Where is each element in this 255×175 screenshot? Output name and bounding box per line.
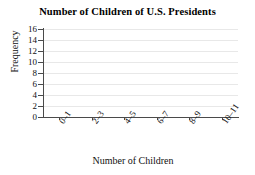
y-tick-mark [38, 62, 43, 63]
y-tick-label: 6 [17, 80, 37, 89]
gridline [43, 73, 238, 74]
y-tick-mark [38, 29, 43, 30]
y-tick-label: 2 [17, 102, 37, 111]
x-axis-line [43, 117, 239, 118]
gridline [43, 62, 238, 63]
gridline [43, 106, 238, 107]
gridline [43, 29, 238, 30]
chart-title: Number of Children of U.S. Presidents [0, 6, 255, 17]
y-tick-mark [38, 117, 43, 118]
y-tick-label: 0 [17, 113, 37, 122]
y-tick-label: 14 [17, 36, 37, 45]
gridline [43, 51, 238, 52]
y-tick-label: 16 [17, 25, 37, 34]
x-axis-title: Number of Children [28, 155, 238, 166]
y-tick-mark [38, 73, 43, 74]
y-tick-label: 12 [17, 47, 37, 56]
y-axis-line [43, 28, 44, 118]
gridline [43, 84, 238, 85]
plot-area [43, 29, 238, 117]
bar-chart-figure: Number of Children of U.S. Presidents Fr… [0, 0, 255, 175]
y-tick-mark [38, 51, 43, 52]
y-tick-mark [38, 40, 43, 41]
y-tick-mark [38, 84, 43, 85]
y-tick-label: 4 [17, 91, 37, 100]
y-tick-label: 10 [17, 58, 37, 67]
gridline [43, 40, 238, 41]
y-tick-mark [38, 106, 43, 107]
y-tick-mark [38, 95, 43, 96]
gridline [43, 95, 238, 96]
y-tick-label: 8 [17, 69, 37, 78]
